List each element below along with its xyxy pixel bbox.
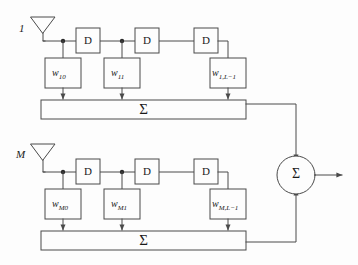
delay-block-1-0-label: D — [76, 34, 100, 46]
weight-m-1-label: wM1 — [111, 198, 127, 212]
weight-1-1-sub: 11 — [118, 73, 124, 81]
beamformer-diagram: 1 M D D D D D D w10 w11 w1,L−1 wM0 wM1 w… — [0, 0, 358, 265]
antenna-m-icon — [31, 144, 55, 160]
delay-block-1-1-label: D — [135, 34, 159, 46]
antenna-m-label: M — [16, 148, 25, 160]
weight-m-2-sub: M,L−1 — [219, 204, 239, 212]
weight-1-0-label: w10 — [52, 67, 66, 81]
weight-1-2-label: w1,L−1 — [212, 67, 236, 81]
delay-block-m-0-label: D — [76, 165, 100, 177]
antenna-1-icon — [31, 17, 55, 33]
weight-1-1-label: w11 — [111, 67, 124, 81]
summation-bar-m-sigma: Σ — [41, 232, 246, 249]
weight-m-0-label: wM0 — [52, 198, 68, 212]
weight-1-2-sub: 1,L−1 — [219, 73, 236, 81]
summation-bar-1-sigma: Σ — [41, 101, 246, 118]
output-summing-junction-sigma: Σ — [277, 166, 315, 182]
antenna-1-label: 1 — [19, 22, 25, 34]
weight-m-0-sub: M0 — [59, 204, 68, 212]
delay-block-m-1-label: D — [135, 165, 159, 177]
weight-m-2-base: w — [212, 198, 219, 209]
weight-m-1-sub: M1 — [118, 204, 127, 212]
weight-1-0-sub: 10 — [59, 73, 66, 81]
weight-1-0-base: w — [52, 67, 59, 78]
weight-m-2-label: wM,L−1 — [212, 198, 238, 212]
weight-1-2-base: w — [212, 67, 219, 78]
delay-block-m-2-label: D — [194, 165, 218, 177]
diagram-canvas — [0, 0, 358, 265]
weight-m-1-base: w — [111, 198, 118, 209]
weight-m-0-base: w — [52, 198, 59, 209]
weight-1-1-base: w — [111, 67, 118, 78]
delay-block-1-2-label: D — [194, 34, 218, 46]
